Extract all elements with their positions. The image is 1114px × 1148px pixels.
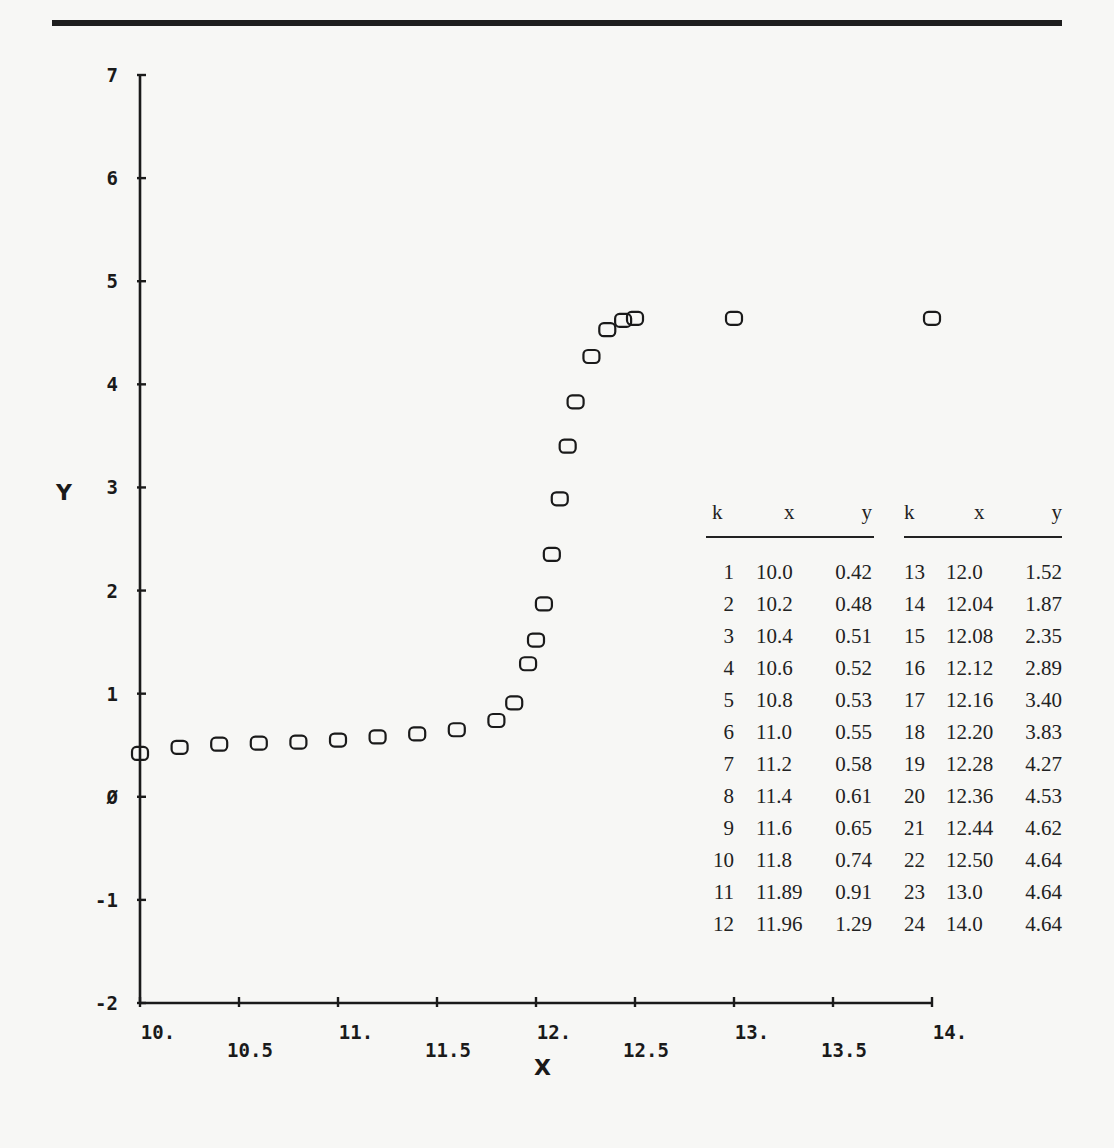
table-row: 611.00.55 — [706, 720, 874, 752]
y-tick-label: Ø — [106, 786, 119, 808]
data-point-marker — [172, 741, 188, 754]
header-x: x — [784, 500, 795, 525]
table-row: 310.40.51 — [706, 624, 874, 656]
cell-y: 0.48 — [835, 592, 872, 617]
header-y: y — [1052, 500, 1063, 525]
table-row: 1512.082.35 — [904, 624, 1062, 656]
cell-y: 0.91 — [835, 880, 872, 905]
table-header: k x y — [706, 500, 874, 530]
data-point-marker — [552, 492, 568, 505]
cell-x: 12.0 — [946, 560, 983, 585]
cell-k: 18 — [904, 720, 925, 745]
cell-y: 0.55 — [835, 720, 872, 745]
table-row: 711.20.58 — [706, 752, 874, 784]
cell-x: 12.28 — [946, 752, 993, 777]
data-point-marker — [506, 696, 522, 709]
cell-y: 3.40 — [1025, 688, 1062, 713]
cell-y: 0.58 — [835, 752, 872, 777]
faint-caption-area — [60, 1122, 1060, 1134]
cell-k: 9 — [724, 816, 735, 841]
data-point-marker — [211, 738, 227, 751]
cell-x: 12.12 — [946, 656, 993, 681]
table-row: 811.40.61 — [706, 784, 874, 816]
cell-y: 0.51 — [835, 624, 872, 649]
cell-k: 14 — [904, 592, 925, 617]
data-point-marker — [599, 323, 615, 336]
cell-x: 10.4 — [756, 624, 793, 649]
cell-x: 12.44 — [946, 816, 993, 841]
x-tick-label-minor: 10.5 — [227, 1039, 273, 1061]
table-row: 510.80.53 — [706, 688, 874, 720]
cell-k: 21 — [904, 816, 925, 841]
cell-y: 0.65 — [835, 816, 872, 841]
cell-k: 3 — [724, 624, 735, 649]
data-point-marker — [449, 723, 465, 736]
cell-x: 11.4 — [756, 784, 792, 809]
cell-k: 8 — [724, 784, 735, 809]
header-y: y — [862, 500, 873, 525]
header-x: x — [974, 500, 985, 525]
data-point-marker — [568, 395, 584, 408]
cell-k: 4 — [724, 656, 735, 681]
table-row: 2313.04.64 — [904, 880, 1062, 912]
cell-y: 4.64 — [1025, 848, 1062, 873]
table-row: 1312.01.52 — [904, 560, 1062, 592]
x-tick-label-minor: 13.5 — [821, 1039, 867, 1061]
x-tick-label-major: 13. — [735, 1021, 769, 1043]
cell-k: 7 — [724, 752, 735, 777]
header-k: k — [712, 500, 723, 525]
cell-k: 23 — [904, 880, 925, 905]
cell-y: 1.29 — [835, 912, 872, 937]
cell-x: 12.50 — [946, 848, 993, 873]
cell-x: 12.04 — [946, 592, 993, 617]
cell-k: 10 — [713, 848, 734, 873]
table-row: 410.60.52 — [706, 656, 874, 688]
header-k: k — [904, 500, 915, 525]
cell-k: 5 — [724, 688, 735, 713]
cell-y: 1.87 — [1025, 592, 1062, 617]
y-tick-label: 7 — [107, 64, 118, 86]
table-row: 2012.364.53 — [904, 784, 1062, 816]
cell-x: 11.6 — [756, 816, 792, 841]
data-point-marker — [536, 597, 552, 610]
cell-x: 12.36 — [946, 784, 993, 809]
table-row: 1712.163.40 — [904, 688, 1062, 720]
cell-x: 13.0 — [946, 880, 983, 905]
cell-y: 4.64 — [1025, 912, 1062, 937]
data-point-marker — [726, 312, 742, 325]
y-tick-label: 6 — [107, 167, 118, 189]
y-axis-title: Y — [55, 480, 73, 505]
cell-k: 15 — [904, 624, 925, 649]
cell-y: 4.62 — [1025, 816, 1062, 841]
cell-y: 0.53 — [835, 688, 872, 713]
cell-y: 1.52 — [1025, 560, 1062, 585]
table-row: 2414.04.64 — [904, 912, 1062, 944]
cell-x: 11.89 — [756, 880, 802, 905]
table-row: 110.00.42 — [706, 560, 874, 592]
cell-x: 11.0 — [756, 720, 792, 745]
table-row: 911.60.65 — [706, 816, 874, 848]
table-rows-right: 1312.01.521412.041.871512.082.351612.122… — [904, 560, 1062, 944]
cell-k: 11 — [714, 880, 734, 905]
data-point-marker — [330, 734, 346, 747]
cell-x: 11.8 — [756, 848, 792, 873]
cell-x: 11.2 — [756, 752, 792, 777]
data-point-marker — [520, 657, 536, 670]
data-point-marker — [528, 634, 544, 647]
x-tick-label-minor: 11.5 — [425, 1039, 471, 1061]
table-header: k x y — [904, 500, 1062, 530]
y-tick-label: 2 — [107, 580, 118, 602]
data-point-marker — [583, 350, 599, 363]
table-header-rule — [706, 536, 874, 538]
cell-y: 0.42 — [835, 560, 872, 585]
table-row: 210.20.48 — [706, 592, 874, 624]
cell-k: 24 — [904, 912, 925, 937]
table-row: 1912.284.27 — [904, 752, 1062, 784]
cell-x: 10.6 — [756, 656, 793, 681]
cell-k: 20 — [904, 784, 925, 809]
table-row: 1111.890.91 — [706, 880, 874, 912]
cell-k: 2 — [724, 592, 735, 617]
data-point-marker — [544, 548, 560, 561]
table-rows-left: 110.00.42210.20.48310.40.51410.60.52510.… — [706, 560, 874, 944]
y-tick-label: 1 — [107, 683, 118, 705]
